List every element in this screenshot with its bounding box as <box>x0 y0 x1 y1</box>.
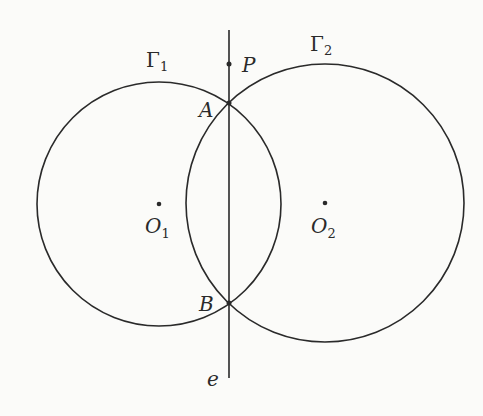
label-e: e <box>207 367 219 391</box>
label-p: P <box>241 53 256 77</box>
label-o1: O1 <box>145 214 170 241</box>
point-p <box>227 62 232 67</box>
label-gamma2: Γ2 <box>310 32 332 58</box>
point-a <box>227 101 232 106</box>
label-gamma1: Γ1 <box>146 48 168 74</box>
label-b: B <box>198 292 214 316</box>
radical-axis-diagram: Γ1 Γ2 P A B O1 O2 e <box>0 0 483 416</box>
label-o2: O2 <box>311 214 336 241</box>
diagram-canvas: Γ1 Γ2 P A B O1 O2 e <box>0 0 483 416</box>
label-a: A <box>197 98 213 122</box>
point-b <box>227 301 232 306</box>
center-o1 <box>157 202 162 207</box>
center-o2 <box>323 201 328 206</box>
